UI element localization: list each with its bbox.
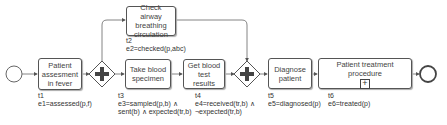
task-effect-t2: e2=checked(p,abc) [126,45,186,54]
task-get-blood-test-results[interactable]: Get blood test results [183,59,225,89]
task-effect-t4-line2: ¬expected(tr,b) [195,108,242,117]
parallel-gateway-split [89,61,115,87]
task-effect-t6: e6=treated(p) [328,100,370,109]
task-take-blood-specimen[interactable]: Take blood specimen [125,59,171,89]
subprocess-expand-icon[interactable]: + [360,79,370,89]
task-effect-t5: e5=diagnosed(p) [268,100,321,109]
parallel-gateway-join [234,61,260,87]
end-event [420,66,436,82]
start-event [6,66,22,82]
task-diagnose-patient[interactable]: Diagnose patient [268,58,312,89]
task-effect-t3-line2: sent(b) ∧ expected(tr,b) [118,108,191,117]
task-patient-assessment[interactable]: Patient assesment in fever [38,58,82,90]
task-check-abc[interactable]: Check airway breathing circulation [126,6,176,36]
task-effect-t1: e1=assessed(p,f) [38,100,92,109]
